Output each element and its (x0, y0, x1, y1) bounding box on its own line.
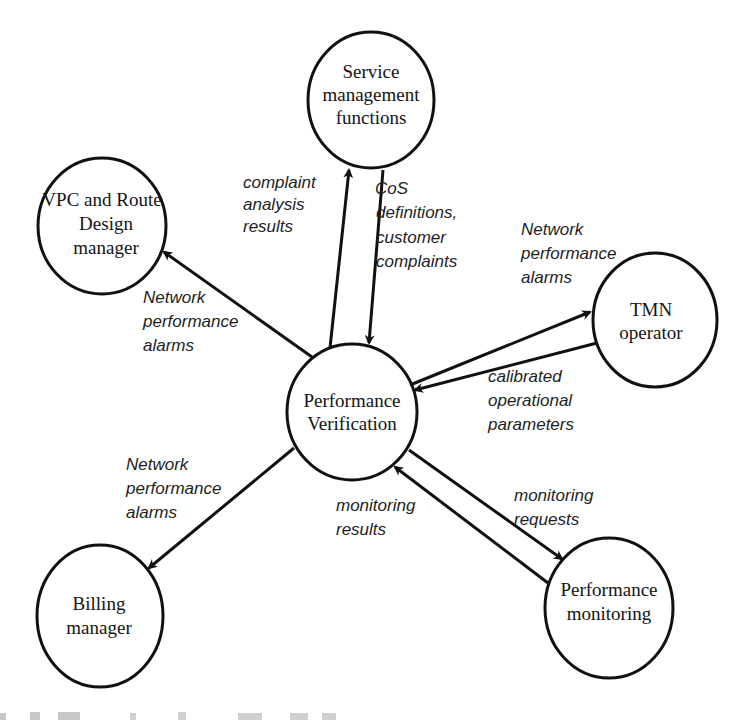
edge-label-line: alarms (126, 503, 178, 522)
edge-label-line: calibrated (488, 367, 562, 386)
node-label-line: Verification (307, 413, 397, 434)
node-label-line: manager (73, 237, 139, 258)
edge-label-line: alarms (143, 336, 195, 355)
edge-label-tmn-network-alarms: Network performance alarms (520, 220, 616, 287)
node-label-line: Billing (73, 593, 126, 614)
edge-label-line: analysis (243, 195, 305, 214)
edge-label-vpc-network-alarms: Network performance alarms (142, 288, 238, 355)
edge-label-line: operational (488, 391, 573, 410)
node-circle (287, 344, 417, 480)
node-label-line: TMN (630, 299, 673, 320)
clipped-caption (0, 712, 336, 720)
node-label-line: management (322, 84, 420, 105)
edge-label-line: performance (125, 479, 221, 498)
node-label-line: Performance (303, 390, 400, 411)
edge-label-line: alarms (521, 268, 573, 287)
edge-label-line: complaints (376, 252, 458, 271)
node-label-line: functions (336, 107, 407, 128)
dataflow-diagram: Service management functions VPC and Rou… (0, 0, 738, 720)
edge-label-billing-network-alarms: Network performance alarms (125, 455, 221, 522)
edge-label-line: complaint (243, 173, 317, 192)
edge-label-line: customer (376, 228, 447, 247)
edge-label-calibrated-parameters: calibrated operational parameters (487, 367, 574, 434)
edge-label-line: CoS (375, 179, 409, 198)
node-service-management: Service management functions (308, 32, 434, 168)
node-vpc-route-design-manager: VPC and Route Design manager (38, 158, 166, 294)
node-circle (593, 253, 717, 387)
arrow-verification-to-service (330, 170, 349, 348)
node-tmn-operator: TMN operator (593, 253, 717, 387)
edge-label-cos-definitions: CoS definitions, customer complaints (375, 179, 458, 271)
edge-label-monitoring-requests: monitoring requests (514, 486, 594, 529)
node-label-line: Performance (560, 579, 657, 600)
edge-label-line: performance (142, 312, 238, 331)
edge-label-line: monitoring (336, 496, 416, 515)
node-label-line: Design (79, 213, 133, 234)
edge-label-line: monitoring (514, 486, 594, 505)
node-label-line: manager (66, 617, 132, 638)
edge-label-monitoring-results: monitoring results (336, 496, 416, 539)
edge-label-complaint-analysis-results: complaint analysis results (243, 173, 317, 236)
edge-label-line: requests (514, 510, 580, 529)
edge-label-line: performance (520, 244, 616, 263)
node-label-line: operator (619, 322, 683, 343)
edge-label-line: definitions, (376, 203, 457, 222)
node-billing-manager: Billing manager (37, 545, 163, 687)
edge-label-line: Network (143, 288, 207, 307)
node-label-line: monitoring (567, 603, 652, 624)
edge-label-line: results (243, 217, 294, 236)
edge-label-line: results (336, 520, 387, 539)
node-label-line: Service (343, 61, 400, 82)
edge-label-line: parameters (487, 415, 574, 434)
edge-label-line: Network (521, 220, 585, 239)
node-performance-verification: Performance Verification (287, 344, 417, 480)
node-performance-monitoring: Performance monitoring (545, 538, 673, 678)
edge-label-line: Network (126, 455, 190, 474)
node-circle (37, 545, 163, 687)
node-label-line: VPC and Route (42, 189, 161, 210)
